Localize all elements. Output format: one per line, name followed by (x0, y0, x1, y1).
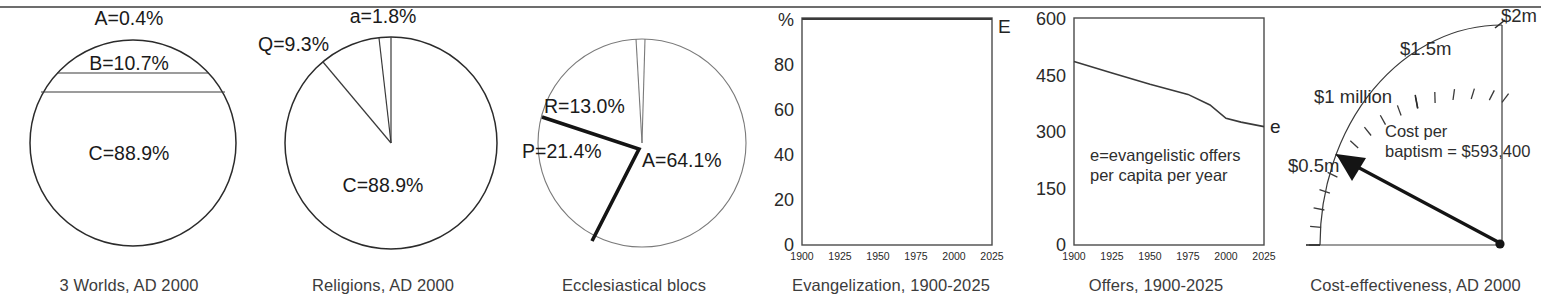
x-tick-1950: 1950 (866, 250, 890, 262)
caption-religions: Religions, AD 2000 (258, 276, 508, 295)
y-tick-150: 150 (1036, 179, 1066, 199)
y-tick-20: 20 (774, 190, 794, 210)
x-tick-1975: 1975 (904, 250, 928, 262)
evangelization-graphic: % 80 60 40 20 0 1900 1925 1950 1975 2000… (760, 0, 1022, 270)
label-c-religions: C=88.9% (343, 174, 424, 196)
y-unit-label: % (778, 10, 794, 30)
dial-note-line1: Cost per (1385, 122, 1448, 140)
panel-three-worlds: A=0.4% B=10.7% C=88.9% 3 Worlds, AD 2000 (0, 0, 258, 307)
label-a-small: a=1.8% (350, 5, 417, 27)
label-a-blocs: A=64.1% (642, 149, 722, 171)
x-tick-2000: 2000 (1214, 250, 1238, 262)
offers-note-line1: e=evangelistic offers (1090, 146, 1241, 164)
x-tick-2025: 2025 (1252, 250, 1276, 262)
dial-pivot (1495, 239, 1504, 248)
panel-evangelization: % 80 60 40 20 0 1900 1925 1950 1975 2000… (760, 0, 1022, 307)
label-q: Q=9.3% (258, 33, 329, 55)
label-c: C=88.9% (89, 142, 170, 164)
label-a: A=0.4% (95, 7, 164, 29)
x-tick-1975: 1975 (1176, 250, 1200, 262)
dial-label-1-5m: $1.5m (1400, 38, 1451, 59)
caption-evangelization: Evangelization, 1900-2025 (760, 276, 1022, 295)
dial-note-line2: baptism = $593,400 (1385, 142, 1530, 160)
plot-frame (1074, 18, 1264, 245)
figure-root: A=0.4% B=10.7% C=88.9% 3 Worlds, AD 2000… (0, 0, 1541, 307)
x-tick-1925: 1925 (1100, 250, 1124, 262)
x-tick-1900: 1900 (1062, 250, 1086, 262)
wedge-p-outline (542, 117, 639, 241)
pie-divider-q-c (323, 62, 391, 143)
x-tick-1925: 1925 (828, 250, 852, 262)
y-tick-450: 450 (1036, 66, 1066, 86)
offers-graphic: 600 450 300 150 0 1900 1925 1950 1975 20… (1022, 0, 1290, 270)
y-tick-60: 60 (774, 100, 794, 120)
x-tick-1900: 1900 (790, 250, 814, 262)
caption-cost-effectiveness: Cost-effectiveness, AD 2000 (1290, 276, 1541, 295)
series-line-e (1074, 62, 1264, 127)
x-tick-2025: 2025 (980, 250, 1004, 262)
caption-ecclesiastical-blocs: Ecclesiastical blocs (508, 276, 760, 295)
y-tick-80: 80 (774, 55, 794, 75)
label-b: B=10.7% (89, 52, 169, 74)
label-r: R=13.0% (544, 95, 625, 117)
series-label-e: e (1270, 116, 1281, 137)
caption-offers: Offers, 1900-2025 (1022, 276, 1290, 295)
panel-cost-effectiveness: $2m $1.5m $1 million $0.5m Cost per bapt… (1290, 0, 1541, 307)
cost-effectiveness-graphic: $2m $1.5m $1 million $0.5m Cost per bapt… (1290, 0, 1541, 270)
label-p: P=21.4% (522, 140, 602, 162)
three-worlds-graphic (0, 0, 258, 270)
pie-divider-sliver-left (636, 39, 642, 143)
y-tick-600: 600 (1036, 9, 1066, 29)
y-tick-300: 300 (1036, 122, 1066, 142)
panel-offers: 600 450 300 150 0 1900 1925 1950 1975 20… (1022, 0, 1290, 307)
dial-label-1-million: $1 million (1314, 86, 1392, 107)
panel-ecclesiastical-blocs: R=13.0% P=21.4% A=64.1% Ecclesiastical b… (508, 0, 760, 307)
caption-three-worlds: 3 Worlds, AD 2000 (0, 276, 258, 295)
dial-label-2m: $2m (1501, 5, 1537, 26)
ecclesiastical-graphic (508, 0, 760, 270)
dial-label-0-5m: $0.5m (1288, 155, 1339, 176)
plot-frame (802, 18, 992, 245)
y-tick-40: 40 (774, 145, 794, 165)
x-tick-2000: 2000 (942, 250, 966, 262)
x-tick-1950: 1950 (1138, 250, 1162, 262)
offers-note-line2: per capita per year (1090, 166, 1228, 184)
dial-needle (1350, 163, 1500, 243)
series-label-E: E (998, 16, 1011, 37)
pie-divider-sliver-right (642, 39, 645, 143)
panel-religions: a=1.8% Q=9.3% C=88.9% Religions, AD 2000 (258, 0, 508, 307)
